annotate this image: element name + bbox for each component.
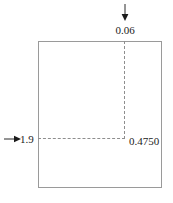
vertical-guide-dashed-line bbox=[124, 41, 125, 139]
horizontal-guide-dashed-line bbox=[38, 138, 125, 139]
cell-value-label: 0.4750 bbox=[129, 135, 159, 147]
column-index-label: 0.06 bbox=[106, 24, 144, 36]
row-index-label: 1.9 bbox=[20, 133, 34, 145]
diagram-canvas: 0.06 1.9 0.4750 bbox=[0, 0, 173, 203]
table-region-rectangle bbox=[38, 41, 162, 188]
arrow-down-icon bbox=[118, 4, 132, 22]
